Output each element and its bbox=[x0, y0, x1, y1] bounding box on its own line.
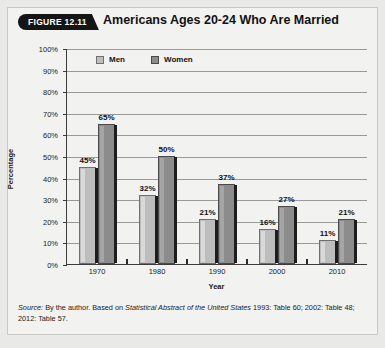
y-axis-title: Percentage bbox=[6, 149, 15, 189]
source-prefix: Source: bbox=[18, 303, 43, 312]
bar-shadow bbox=[294, 207, 297, 263]
bar-value-label: 45% bbox=[79, 156, 95, 165]
bar-highlight bbox=[340, 221, 344, 262]
x-axis-tick-label: 1980 bbox=[149, 267, 166, 276]
bar-highlight bbox=[160, 158, 164, 262]
bar-highlight bbox=[81, 169, 85, 262]
bar-men-2000: 16% bbox=[259, 229, 276, 264]
x-axis-tick-label: 1970 bbox=[89, 267, 106, 276]
bar-highlight bbox=[280, 208, 284, 262]
bar-value-label: 27% bbox=[278, 195, 294, 204]
x-axis-tick-cell: 2010 bbox=[307, 264, 367, 280]
legend-swatch-women-icon bbox=[151, 56, 159, 64]
figure-number-badge: FIGURE 12.11 bbox=[18, 14, 99, 30]
y-axis-tick-label: 50% bbox=[43, 153, 58, 162]
bar-highlight bbox=[141, 197, 145, 262]
bar-value-label: 65% bbox=[98, 113, 114, 122]
bar-highlight bbox=[321, 242, 325, 262]
bar-women-1990: 37% bbox=[218, 184, 235, 264]
x-axis-tick-cell: 1980 bbox=[127, 264, 187, 280]
source-note: Source: By the author. Based on Statisti… bbox=[18, 303, 367, 324]
bar-shadow bbox=[174, 157, 177, 263]
bar-shadow bbox=[234, 185, 237, 263]
y-axis-tick-label: 20% bbox=[43, 217, 58, 226]
bar-group: 16%27% bbox=[247, 49, 307, 264]
source-text-1: By the author. Based on bbox=[43, 303, 125, 312]
bar-value-label: 21% bbox=[338, 208, 354, 217]
figure-header: FIGURE 12.11 Americans Ages 20-24 Who Ar… bbox=[8, 8, 377, 39]
x-axis-tick-cell: 2000 bbox=[247, 264, 307, 280]
bar-men-1980: 32% bbox=[139, 195, 156, 264]
y-axis-tick-label: 70% bbox=[43, 109, 58, 118]
bar-value-label: 11% bbox=[320, 229, 336, 238]
bar-group: 11%21% bbox=[307, 49, 367, 264]
bar-value-label: 32% bbox=[139, 184, 155, 193]
bar-value-label: 50% bbox=[158, 145, 174, 154]
legend-label-men: Men bbox=[109, 55, 125, 64]
bar-group: 45%65% bbox=[67, 49, 127, 264]
bar-shadow bbox=[354, 220, 357, 263]
y-axis-tick-label: 100% bbox=[39, 45, 58, 54]
bar-men-1990: 21% bbox=[199, 219, 216, 264]
bar-highlight bbox=[220, 186, 224, 262]
x-axis-tick-cell: 1970 bbox=[67, 264, 127, 280]
bar-groups: 45%65%32%50%21%37%16%27%11%21% bbox=[67, 49, 367, 264]
x-axis-tick-label: 1990 bbox=[209, 267, 226, 276]
y-axis-tick-label: 90% bbox=[43, 66, 58, 75]
y-axis-tick-label: 60% bbox=[43, 131, 58, 140]
bar-men-1970: 45% bbox=[79, 167, 96, 264]
bar-men-2010: 11% bbox=[319, 240, 336, 264]
x-axis-tick-labels: 19701980199020002010 bbox=[67, 264, 367, 280]
y-axis-tick-label: 40% bbox=[43, 174, 58, 183]
chart-area: Percentage 100%90%80%70%60%50%40%30%20%1… bbox=[8, 41, 379, 299]
y-axis-tick-label: 30% bbox=[43, 196, 58, 205]
y-axis-tick-label: 80% bbox=[43, 88, 58, 97]
bar-value-label: 16% bbox=[259, 218, 275, 227]
legend-item-men: Men bbox=[96, 55, 125, 64]
bar-women-2000: 27% bbox=[278, 206, 295, 264]
y-axis-tick-label: 10% bbox=[43, 239, 58, 248]
bar-women-2010: 21% bbox=[338, 219, 355, 264]
y-axis-tick-label: 0% bbox=[47, 261, 58, 270]
x-axis-tick-label: 2010 bbox=[329, 267, 346, 276]
bar-value-label: 37% bbox=[218, 173, 234, 182]
bar-highlight bbox=[201, 221, 205, 262]
x-axis-tick-label: 2000 bbox=[269, 267, 286, 276]
bar-group: 32%50% bbox=[127, 49, 187, 264]
legend-swatch-men-icon bbox=[96, 56, 104, 64]
x-axis-title: Year bbox=[66, 282, 367, 291]
figure-card: FIGURE 12.11 Americans Ages 20-24 Who Ar… bbox=[7, 7, 378, 335]
chart-legend: Men Women bbox=[96, 55, 193, 64]
page-title: Americans Ages 20-24 Who Are Married bbox=[103, 13, 339, 27]
bar-women-1970: 65% bbox=[98, 124, 115, 264]
bar-value-label: 21% bbox=[199, 208, 215, 217]
y-axis-tick-labels: 100%90%80%70%60%50%40%30%20%10%0% bbox=[22, 41, 58, 299]
bar-shadow bbox=[114, 125, 117, 263]
legend-item-women: Women bbox=[151, 55, 193, 64]
bar-highlight bbox=[100, 126, 104, 262]
bar-highlight bbox=[261, 231, 265, 262]
bar-group: 21%37% bbox=[187, 49, 247, 264]
legend-label-women: Women bbox=[164, 55, 193, 64]
source-publication: Statistical Abstract of the United State… bbox=[125, 303, 251, 312]
bar-women-1980: 50% bbox=[158, 156, 175, 264]
x-axis-tick-cell: 1990 bbox=[187, 264, 247, 280]
plot-frame: 45%65%32%50%21%37%16%27%11%21% 197019801… bbox=[66, 49, 367, 265]
